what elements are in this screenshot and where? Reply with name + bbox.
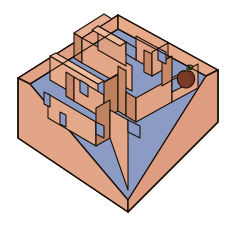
inner-wall-05-face (66, 72, 74, 101)
doorway-gap-03 (44, 92, 50, 107)
inner-wall-05 (66, 72, 74, 101)
inner-wall-11 (144, 50, 152, 76)
inner-wall-11-face (144, 50, 152, 76)
inner-wall-08-face (118, 66, 126, 116)
inner-wall-09-face (126, 92, 136, 122)
maze-illustration: Isometric maze box with apple (0, 0, 236, 230)
doorway-gap-04 (60, 112, 66, 127)
inner-wall-08 (118, 66, 126, 116)
